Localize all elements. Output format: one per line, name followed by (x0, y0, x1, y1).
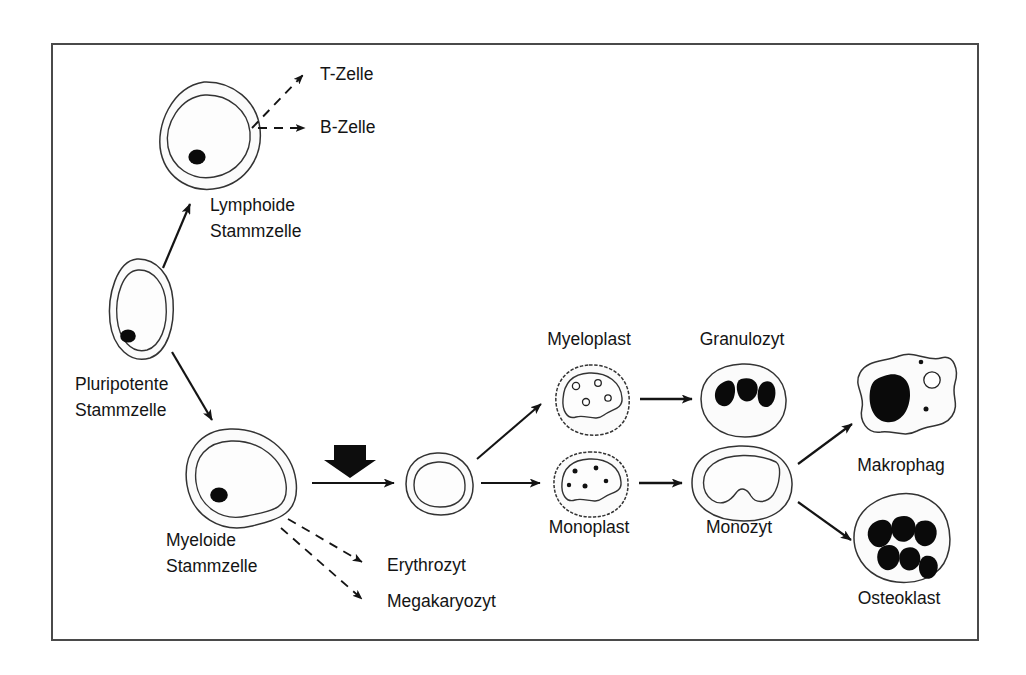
label-makrophag: Makrophag (857, 455, 945, 475)
label-monozyt: Monozyt (706, 517, 772, 537)
label-t-zelle: T-Zelle (320, 64, 373, 84)
cell-granulozyt (701, 364, 786, 437)
label-myeloide-stammzelle-line2: Stammzelle (166, 556, 257, 576)
cell-progenitor-intermediate (406, 453, 473, 515)
label-lymphoide-stammzelle-line2: Stammzelle (210, 221, 301, 241)
label-myeloplast: Myeloplast (547, 329, 631, 349)
diagram-canvas: Lymphoide Stammzelle Pluripotente Stammz… (0, 0, 1026, 675)
cell-osteoklast (854, 494, 950, 583)
label-b-zelle: B-Zelle (320, 117, 375, 137)
cell-pluripotente-stammzelle (109, 259, 173, 359)
label-myeloide-stammzelle-line1: Myeloide (166, 530, 236, 550)
label-erythrozyt: Erythrozyt (387, 555, 466, 575)
cell-makrophag (858, 354, 957, 434)
label-lymphoide-stammzelle-line1: Lymphoide (210, 195, 295, 215)
cell-monoplast (554, 452, 628, 517)
label-osteoklast: Osteoklast (858, 588, 941, 608)
label-granulozyt: Granulozyt (700, 329, 785, 349)
cell-lymphoide-stammzelle (160, 82, 261, 189)
label-pluripotente-stammzelle-line1: Pluripotente (75, 374, 168, 394)
label-monoplast: Monoplast (549, 517, 630, 537)
cell-monozyt (692, 446, 792, 521)
haematopoiesis-figure: Lymphoide Stammzelle Pluripotente Stammz… (0, 0, 1026, 675)
cell-myeloplast (556, 365, 629, 435)
label-megakaryozyt: Megakaryozyt (387, 591, 496, 611)
label-pluripotente-stammzelle-line2: Stammzelle (75, 400, 166, 420)
